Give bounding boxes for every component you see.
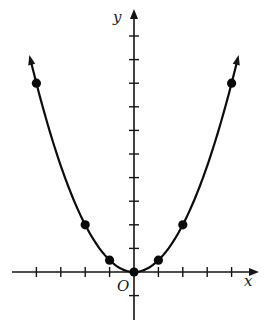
origin-label: O — [117, 277, 129, 295]
data-point — [178, 220, 187, 229]
parabola-plot: x y O — [0, 0, 265, 326]
curve-arrowhead-icon — [28, 55, 35, 66]
data-point — [129, 267, 138, 276]
data-point — [32, 79, 41, 88]
y-axis-label: y — [112, 8, 122, 26]
x-axis-label: x — [244, 272, 253, 290]
data-point — [154, 256, 163, 265]
y-axis-arrow-icon — [130, 9, 138, 19]
curve-arrowhead-icon — [233, 55, 240, 66]
data-point — [105, 256, 114, 265]
data-point — [227, 79, 236, 88]
data-point — [81, 220, 90, 229]
